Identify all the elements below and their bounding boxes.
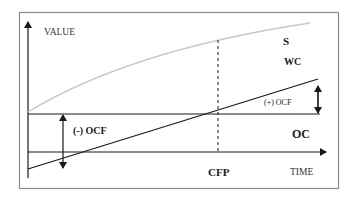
value-axis-label: VALUE [44,27,75,37]
value-time-diagram: VALUE TIME S WC OC (+) OCF (-) OCF CFP [0,0,353,200]
s-curve-label: S [283,35,289,47]
time-axis-label: TIME [290,167,313,177]
oc-label: OC [292,127,310,141]
negative-ocf-label: (-) OCF [73,125,107,137]
positive-ocf-label: (+) OCF [264,98,292,107]
wc-label: WC [284,56,301,67]
cfp-label: CFP [208,166,230,178]
oc-line [28,79,318,169]
